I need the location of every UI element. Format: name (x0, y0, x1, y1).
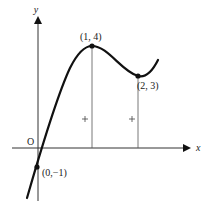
plus-marker-left (82, 116, 88, 122)
plus-marker-right (129, 116, 135, 122)
point-y-intercept (34, 164, 39, 169)
point-local-max (89, 43, 94, 48)
origin-label: O (27, 136, 34, 147)
point-label-min: (2, 3) (137, 80, 159, 92)
function-graph-figure: y x O (1, 4) (2, 3) (0,−1) (0, 0, 209, 204)
point-local-min (135, 73, 140, 78)
point-label-intercept: (0,−1) (42, 167, 67, 179)
x-axis-label: x (195, 142, 201, 153)
point-label-max: (1, 4) (80, 31, 102, 43)
y-axis-label: y (33, 4, 39, 15)
